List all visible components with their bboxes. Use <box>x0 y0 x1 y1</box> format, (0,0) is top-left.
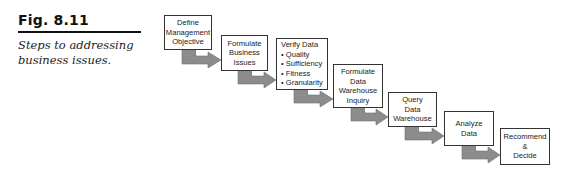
step-box-formulate-issues: Formulate Business Issues <box>221 35 268 71</box>
step-box-analyze-data: Analyze Data <box>444 111 494 146</box>
step-label: Recommend & Decide <box>503 132 546 161</box>
step-label: Formulate Business Issues <box>227 39 261 68</box>
step-box-query-warehouse: Query Data Warehouse <box>388 92 437 127</box>
step-label: Define Management Objective <box>166 18 210 47</box>
step-label: Formulate Data Warehouse Inquiry <box>339 67 378 105</box>
step-label: Verify Data • Quality • Sufficiency • Fi… <box>281 40 323 88</box>
step-box-recommend-decide: Recommend & Decide <box>500 128 550 165</box>
step-label: Analyze Data <box>455 119 482 138</box>
step-label: Query Data Warehouse <box>393 95 432 124</box>
step-box-define-objective: Define Management Objective <box>164 15 212 50</box>
step-box-verify-data: Verify Data • Quality • Sufficiency • Fi… <box>276 38 328 90</box>
step-box-formulate-inquiry: Formulate Data Warehouse Inquiry <box>333 64 383 108</box>
